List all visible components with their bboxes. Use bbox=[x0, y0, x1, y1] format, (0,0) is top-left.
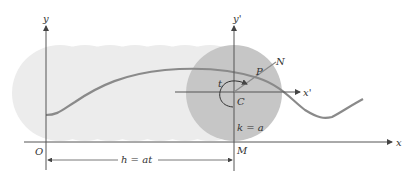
point-p-label: P bbox=[255, 66, 263, 77]
y-prime-label: y' bbox=[232, 13, 241, 24]
distance-equation-label: h = at bbox=[121, 154, 153, 165]
x-axis-label: x bbox=[396, 137, 402, 148]
rolling-disk-diagram: y x O y' x' C P N t M k = a h = at bbox=[0, 0, 404, 179]
point-n-label: N bbox=[275, 56, 286, 67]
y-axis-label: y bbox=[42, 13, 49, 24]
contact-point-label: M bbox=[236, 145, 248, 156]
radius-equation-label: k = a bbox=[237, 122, 264, 133]
x-prime-label: x' bbox=[303, 87, 311, 98]
origin-label: O bbox=[35, 146, 43, 157]
center-label: C bbox=[237, 96, 245, 107]
